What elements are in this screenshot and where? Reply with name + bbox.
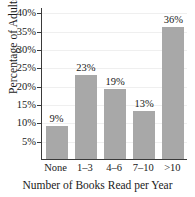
y-axis-tick-labels: 5%10%15%20%25%30%35%40% [5, 8, 36, 160]
bar [75, 75, 97, 159]
x-axis-tick-label: 1–3 [77, 161, 93, 174]
y-axis-tick-mark [37, 68, 41, 69]
bar-series: 9%23%19%13%36% [42, 8, 187, 159]
bar-value-label: 23% [76, 62, 95, 73]
y-axis-tick-mark [37, 50, 41, 51]
bar-value-label: 36% [164, 14, 183, 25]
bar [46, 126, 68, 159]
bar [133, 111, 155, 159]
x-axis-tick-label: None [44, 161, 67, 174]
bar-group: 23% [75, 7, 97, 159]
y-axis-tick-label: 25% [5, 63, 36, 73]
y-axis-tick-mark [37, 87, 41, 88]
y-axis-tick-label: 10% [5, 118, 36, 128]
bar-value-label: 9% [50, 113, 64, 124]
y-axis-tick-label: 40% [5, 8, 36, 18]
y-axis-tick-mark [37, 123, 41, 124]
plot-area: 9%23%19%13%36% [41, 8, 187, 160]
x-axis-tick-labels: None1–34–67–10>10 [41, 161, 187, 177]
x-axis-title: Number of Books Read per Year [0, 178, 195, 192]
bar-group: 9% [46, 7, 68, 159]
bar-chart: Percentage of Adults 5%10%15%20%25%30%35… [0, 0, 195, 197]
y-axis-tick-label: 35% [5, 27, 36, 37]
y-axis-tick-mark [37, 142, 41, 143]
bar-value-label: 19% [105, 76, 124, 87]
y-axis-tick-mark [37, 32, 41, 33]
x-axis-tick-label: 7–10 [133, 161, 154, 174]
x-axis-tick-label: >10 [164, 161, 180, 174]
y-axis-tick-label: 20% [5, 82, 36, 92]
bar-group: 19% [104, 7, 126, 159]
bar [162, 27, 184, 159]
y-axis-tick-mark [37, 105, 41, 106]
bar-value-label: 13% [135, 98, 154, 109]
y-axis-tick-label: 15% [5, 100, 36, 110]
y-axis-tick-label: 30% [5, 45, 36, 55]
bar [104, 89, 126, 159]
x-axis-tick-label: 4–6 [106, 161, 122, 174]
y-axis-tick-label: 5% [5, 137, 36, 147]
y-axis-tick-mark [37, 13, 41, 14]
bar-group: 13% [133, 7, 155, 159]
bar-group: 36% [162, 7, 184, 159]
